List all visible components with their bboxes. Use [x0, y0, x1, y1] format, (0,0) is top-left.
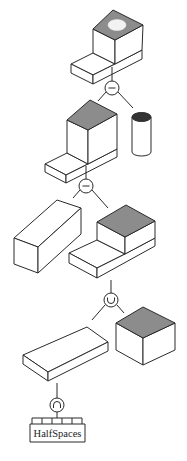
hole-icon: [108, 20, 126, 31]
solid-cube: [116, 307, 175, 365]
intersection-node: [50, 398, 64, 412]
solid-stepped-block-2: [69, 205, 155, 278]
solid-result-with-hole: [71, 10, 143, 84]
cylinder-top: [132, 113, 151, 122]
difference-node-2: [79, 179, 93, 193]
csg-tree-diagram: HalfSpaces: [0, 0, 187, 461]
solid-stepped-block-1: [45, 100, 117, 183]
solid-cylinder: [132, 113, 151, 157]
solid-slab: [23, 327, 108, 381]
halfspaces-label: HalfSpaces: [34, 428, 82, 439]
union-node: [104, 293, 118, 307]
difference-node-1: [105, 81, 119, 95]
halfspaces-leaf: HalfSpaces: [30, 418, 85, 442]
